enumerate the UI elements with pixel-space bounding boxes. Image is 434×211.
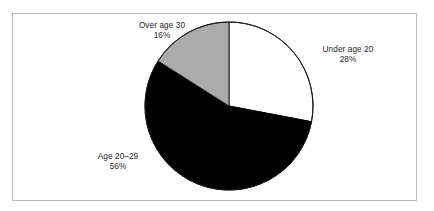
pie-label-over-age-30: Over age 30 16% (118, 21, 206, 41)
pie-label-under-age-20-name: Under age 20 (306, 45, 390, 55)
pie-label-over-age-30-percent: 16% (118, 31, 206, 41)
pie-label-age-20-29-percent: 56% (74, 162, 162, 172)
pie-label-over-age-30-name: Over age 30 (118, 21, 206, 31)
pie-label-age-20-29-name: Age 20–29 (74, 152, 162, 162)
pie-chart-figure: Over age 30 16% Under age 20 28% Age 20–… (0, 0, 434, 211)
pie-label-under-age-20: Under age 20 28% (306, 45, 390, 65)
pie-chart-graphic (0, 0, 434, 211)
pie-label-under-age-20-percent: 28% (306, 55, 390, 65)
pie-label-age-20-29: Age 20–29 56% (74, 152, 162, 172)
pie-slice-under-age-20[interactable] (229, 22, 313, 122)
